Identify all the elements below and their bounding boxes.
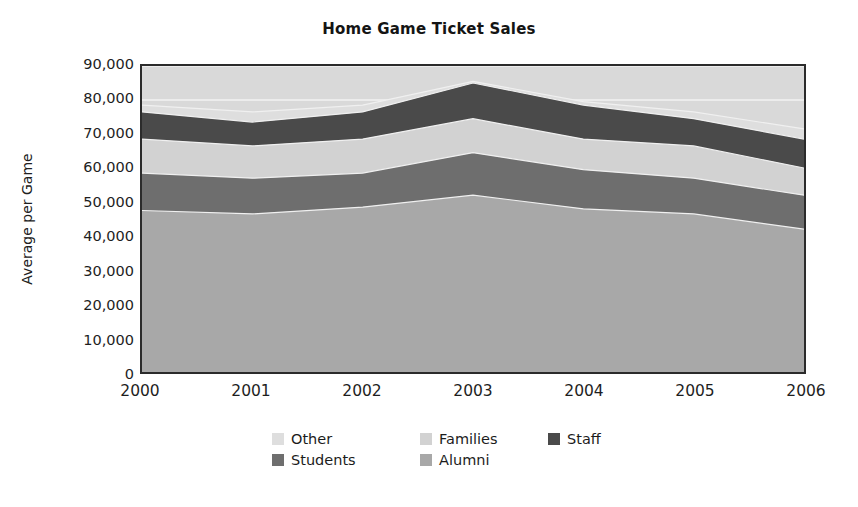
legend-label: Other	[291, 432, 332, 447]
x-tick-label: 2005	[675, 382, 714, 400]
legend-item-alumni[interactable]: Alumni	[420, 453, 548, 468]
x-tick-label: 2002	[342, 382, 381, 400]
x-tick-label: 2006	[786, 382, 825, 400]
y-tick-label: 50,000	[48, 194, 134, 210]
y-tick-label: 10,000	[48, 332, 134, 348]
x-tick-label: 2003	[453, 382, 492, 400]
y-axis-tick-labels: 010,00020,00030,00040,00050,00060,00070,…	[42, 0, 134, 507]
legend-row: StudentsAlumni	[272, 453, 692, 474]
area-series-alumni	[142, 195, 804, 372]
x-axis-tick-labels: 2000200120022003200420052006	[0, 382, 858, 408]
x-tick-label: 2004	[564, 382, 603, 400]
y-tick-label: 40,000	[48, 228, 134, 244]
chart-legend: OtherFamiliesStaffStudentsAlumni	[272, 432, 692, 474]
legend-row: OtherFamiliesStaff	[272, 432, 692, 453]
legend-item-other[interactable]: Other	[272, 432, 420, 447]
plot-area	[140, 64, 806, 374]
legend-label: Alumni	[439, 453, 489, 468]
y-tick-label: 30,000	[48, 263, 134, 279]
y-tick-label: 90,000	[48, 56, 134, 72]
legend-item-students[interactable]: Students	[272, 453, 420, 468]
legend-item-families[interactable]: Families	[420, 432, 548, 447]
y-tick-label: 70,000	[48, 125, 134, 141]
stacked-area-svg	[142, 66, 804, 372]
y-tick-label: 0	[48, 366, 134, 382]
legend-item-staff[interactable]: Staff	[548, 432, 658, 447]
y-tick-label: 60,000	[48, 159, 134, 175]
legend-label: Students	[291, 453, 356, 468]
y-tick-label: 20,000	[48, 297, 134, 313]
y-tick-label: 80,000	[48, 90, 134, 106]
y-axis-title-wrap: Average per Game	[16, 64, 38, 374]
x-tick-label: 2000	[120, 382, 159, 400]
legend-label: Staff	[567, 432, 601, 447]
y-axis-title: Average per Game	[19, 153, 35, 284]
chart-container: Home Game Ticket Sales Average per Game …	[0, 0, 858, 507]
legend-swatch-icon	[548, 433, 560, 445]
legend-label: Families	[439, 432, 498, 447]
legend-swatch-icon	[420, 433, 432, 445]
legend-swatch-icon	[272, 454, 284, 466]
legend-swatch-icon	[272, 433, 284, 445]
legend-swatch-icon	[420, 454, 432, 466]
x-tick-label: 2001	[231, 382, 270, 400]
